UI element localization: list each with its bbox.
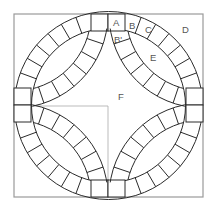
label-f: F — [118, 91, 124, 102]
square-right-top — [186, 88, 203, 105]
square-bottom-left — [91, 180, 108, 197]
connector-squares — [14, 14, 203, 197]
label-a: A — [113, 17, 120, 28]
label-e: E — [150, 52, 156, 63]
label-d: D — [182, 24, 189, 35]
block-frame — [14, 14, 203, 197]
square-top-left — [91, 14, 108, 31]
double-wedding-ring-diagram: A B C D B' E F — [0, 0, 219, 209]
outer-ring — [15, 12, 203, 200]
square-left-bottom — [14, 105, 31, 122]
label-c: C — [145, 24, 152, 35]
square-left-top — [14, 88, 31, 105]
label-b: B — [129, 20, 135, 31]
square-right-bottom — [186, 105, 203, 122]
outer-ring-dividers — [20, 17, 196, 193]
square-bottom-right — [108, 180, 125, 197]
label-b-prime: B' — [114, 34, 122, 45]
